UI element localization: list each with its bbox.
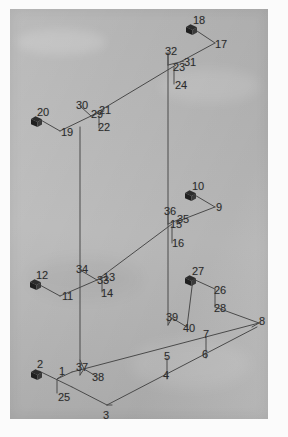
node-label-38: 38 bbox=[92, 372, 104, 383]
node-label-11: 11 bbox=[62, 291, 73, 302]
node-label-40: 40 bbox=[183, 323, 195, 334]
node-label-24: 24 bbox=[175, 80, 187, 91]
node-label-6: 6 bbox=[202, 349, 208, 360]
node-label-33: 33 bbox=[97, 275, 109, 286]
node-label-14: 14 bbox=[101, 288, 113, 299]
marker2-to-node1 bbox=[39, 371, 72, 387]
base-left-run bbox=[72, 387, 107, 405]
node-label-2: 2 bbox=[37, 359, 43, 370]
node-label-19: 19 bbox=[61, 127, 73, 138]
node-label-29: 29 bbox=[91, 109, 103, 120]
figure-root: 1234567891011121314151617181920212223242… bbox=[0, 0, 288, 437]
node-label-3: 3 bbox=[103, 410, 109, 421]
node-label-39: 39 bbox=[166, 312, 178, 323]
node-label-4: 4 bbox=[163, 370, 169, 381]
node-label-12: 12 bbox=[36, 270, 48, 281]
node-label-8: 8 bbox=[259, 316, 265, 327]
node-label-34: 34 bbox=[76, 264, 88, 275]
node-label-26: 26 bbox=[214, 285, 226, 296]
node-label-5: 5 bbox=[164, 351, 170, 362]
node-label-37: 37 bbox=[76, 362, 88, 373]
node-label-16: 16 bbox=[172, 238, 184, 249]
diagram-lines bbox=[0, 0, 288, 437]
node-label-31: 31 bbox=[184, 57, 196, 68]
node-label-7: 7 bbox=[203, 329, 209, 340]
node-label-9: 9 bbox=[216, 202, 222, 213]
node-label-28: 28 bbox=[214, 303, 226, 314]
node-label-10: 10 bbox=[192, 181, 204, 192]
node-label-35: 35 bbox=[177, 214, 189, 225]
node-label-1: 1 bbox=[59, 366, 65, 377]
node-label-20: 20 bbox=[37, 107, 49, 118]
node-label-17: 17 bbox=[215, 39, 227, 50]
node-label-18: 18 bbox=[193, 15, 205, 26]
node-label-27: 27 bbox=[192, 266, 204, 277]
node-label-22: 22 bbox=[98, 122, 110, 133]
node-label-25: 25 bbox=[58, 392, 70, 403]
node-label-36: 36 bbox=[164, 206, 176, 217]
node-label-30: 30 bbox=[76, 100, 88, 111]
base-upper-run bbox=[72, 323, 259, 372]
node-label-32: 32 bbox=[165, 46, 177, 57]
base-front-run bbox=[107, 327, 257, 405]
